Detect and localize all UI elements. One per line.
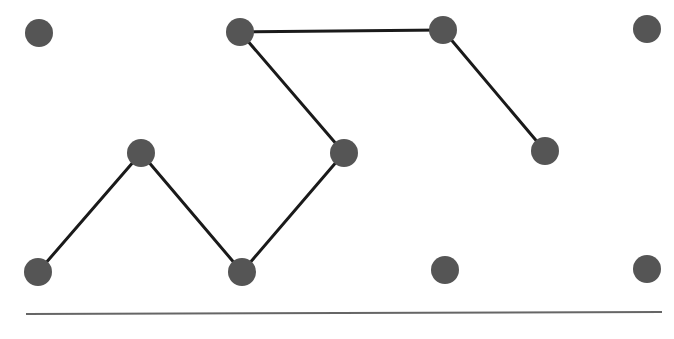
graph-diagram	[0, 0, 674, 339]
graph-node	[431, 256, 459, 284]
graph-node	[429, 16, 457, 44]
graph-node	[633, 15, 661, 43]
nodes-group	[24, 15, 661, 286]
graph-edge	[443, 30, 545, 151]
graph-node	[531, 137, 559, 165]
graph-node	[330, 139, 358, 167]
graph-edge	[141, 153, 242, 272]
graph-node	[226, 18, 254, 46]
graph-edge	[240, 32, 344, 153]
graph-edge	[38, 153, 141, 272]
graph-node	[24, 258, 52, 286]
baseline-divider	[26, 312, 662, 314]
graph-node	[127, 139, 155, 167]
graph-edge	[240, 30, 443, 32]
diagram-canvas	[0, 0, 674, 339]
graph-node	[228, 258, 256, 286]
graph-node	[25, 19, 53, 47]
graph-node	[633, 255, 661, 283]
edges-group	[38, 30, 545, 272]
graph-edge	[242, 153, 344, 272]
